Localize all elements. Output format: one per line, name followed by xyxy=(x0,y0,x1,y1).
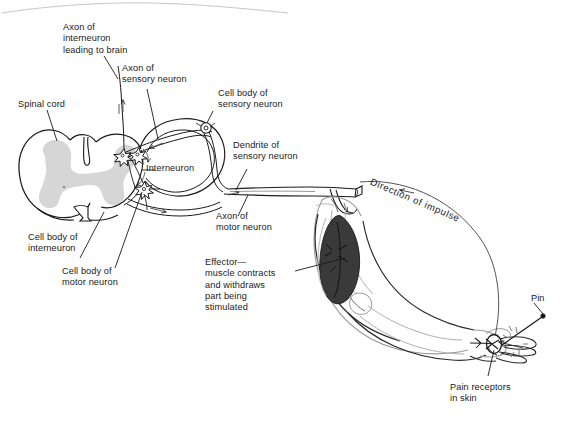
reflex-arc-figure: Axon of interneuron leading to brain Axo… xyxy=(0,0,571,423)
label-cell-body-interneuron: Cell body of interneuron xyxy=(28,232,78,255)
gray-matter-butterfly xyxy=(39,140,137,208)
scan-artifact-line xyxy=(2,3,288,13)
label-spinal-cord: Spinal cord xyxy=(18,99,65,110)
diagram-canvas xyxy=(0,0,571,423)
pain-receptor-nerve-ending xyxy=(470,335,523,356)
label-axon-sensory-neuron: Axon of sensory neuron xyxy=(122,63,187,86)
label-cell-body-sensory-neuron: Cell body of sensory neuron xyxy=(218,88,283,111)
label-pin: Pin xyxy=(531,293,545,304)
label-cell-body-motor-neuron: Cell body of motor neuron xyxy=(62,266,118,289)
label-pain-receptors: Pain receptors in skin xyxy=(450,382,511,405)
label-dendrite-sensory-neuron: Dendrite of sensory neuron xyxy=(233,140,298,163)
label-interneuron: Interneuron xyxy=(146,163,194,174)
label-axon-motor-neuron: Axon of motor neuron xyxy=(216,211,272,234)
label-effector: Effector— muscle contracts and withdraws… xyxy=(205,257,276,313)
peripheral-nerve-bundle xyxy=(224,186,362,214)
biceps-muscle xyxy=(318,199,365,311)
pin-object xyxy=(502,314,545,357)
label-axon-interneuron-brain: Axon of interneuron leading to brain xyxy=(63,22,127,56)
